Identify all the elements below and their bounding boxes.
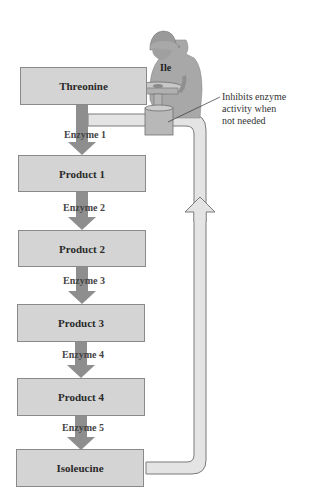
product-1-box: Product 1 — [18, 155, 146, 192]
product-2-box: Product 2 — [18, 230, 146, 267]
arrow-down-icon — [67, 365, 95, 378]
product-4-box: Product 4 — [17, 378, 145, 416]
threonine-box: Threonine — [20, 67, 147, 105]
isoleucine-box: Isoleucine — [16, 449, 144, 487]
arrow-down-icon — [68, 142, 96, 155]
annotation-line-1: Inhibits enzyme — [222, 91, 286, 103]
inhibition-annotation: Inhibits enzyme activity when not needed — [222, 91, 286, 127]
enzyme-4-label: Enzyme 4 — [28, 349, 138, 360]
enzyme-1-label: Enzyme 1 — [30, 129, 140, 140]
product-3-box: Product 3 — [17, 304, 145, 342]
arrow-down-icon — [67, 437, 95, 450]
arrow-down-icon — [68, 291, 96, 304]
arrow-down-icon — [68, 217, 96, 230]
enzyme-2-label: Enzyme 2 — [29, 202, 139, 213]
enzyme-5-label: Enzyme 5 — [28, 422, 138, 433]
inhibitor-label: Ile — [160, 62, 171, 74]
enzyme-3-label: Enzyme 3 — [29, 275, 139, 286]
annotation-line-3: not needed — [222, 115, 286, 127]
annotation-line-2: activity when — [222, 103, 286, 115]
